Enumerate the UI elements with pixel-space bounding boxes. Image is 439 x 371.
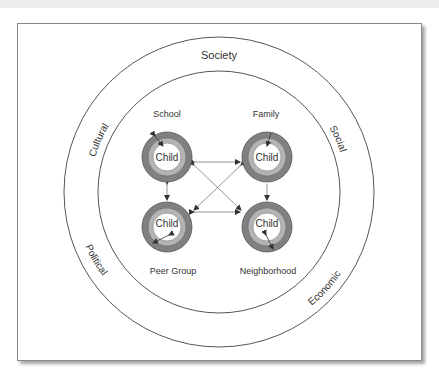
society-label: Society bbox=[201, 49, 238, 61]
peer-group-child-node: Child bbox=[142, 202, 192, 252]
child-label: Child bbox=[256, 152, 279, 163]
social-label: Social bbox=[327, 123, 348, 153]
school-child-node: Child bbox=[142, 132, 192, 182]
cultural-label: Cultural bbox=[87, 121, 111, 158]
neighborhood-label: Neighborhood bbox=[240, 266, 297, 276]
family-label: Family bbox=[253, 109, 280, 119]
child-label: Child bbox=[256, 218, 279, 229]
microsystem-circle bbox=[98, 71, 340, 313]
political-label: Political bbox=[83, 242, 109, 277]
society-circle bbox=[64, 37, 374, 347]
school-label: School bbox=[153, 109, 181, 119]
ecological-systems-diagram: Society Cultural Social Political Econom… bbox=[0, 0, 439, 371]
economic-label: Economic bbox=[306, 268, 343, 307]
child-label: Child bbox=[156, 218, 179, 229]
neighborhood-child-node: Child bbox=[242, 202, 292, 252]
child-label: Child bbox=[156, 152, 179, 163]
family-child-node: Child bbox=[242, 132, 292, 182]
peer-group-label: Peer Group bbox=[150, 266, 197, 276]
